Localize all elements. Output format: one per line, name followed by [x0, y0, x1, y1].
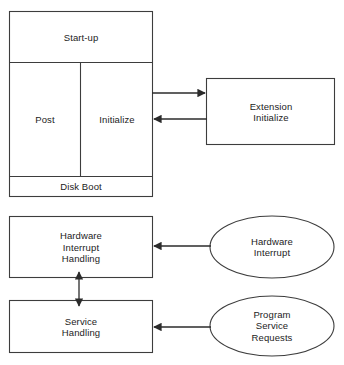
- hardware-interrupt-handling-rect: [10, 217, 153, 278]
- program-service-requests-ellipse: [210, 296, 334, 356]
- extension-initialize-rect: [207, 79, 335, 145]
- hardware-interrupt-ellipse: [210, 216, 334, 278]
- service-handling-rect: [10, 301, 153, 353]
- diagram-vector-layer: [0, 0, 344, 365]
- diagram-canvas: Start-up Post Initialize Disk Boot Exten…: [0, 0, 344, 365]
